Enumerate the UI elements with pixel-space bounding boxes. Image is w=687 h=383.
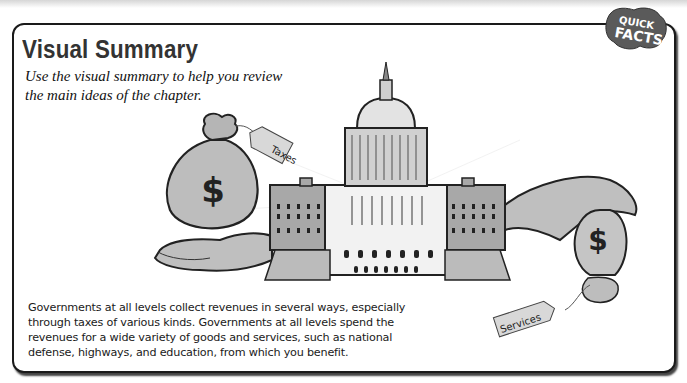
svg-text:$: $: [201, 170, 225, 210]
services-money-bag: $: [575, 210, 627, 302]
page-title: Visual Summary: [22, 34, 198, 65]
capitol-building: [265, 62, 510, 280]
taxes-money-bag: $: [167, 114, 262, 229]
quick-facts-badge: QUICK FACTS: [600, 4, 670, 52]
subtitle: Use the visual summary to help you revie…: [25, 67, 285, 105]
svg-text:$: $: [588, 224, 607, 257]
summary-text: Governments at all levels collect revenu…: [28, 300, 408, 360]
